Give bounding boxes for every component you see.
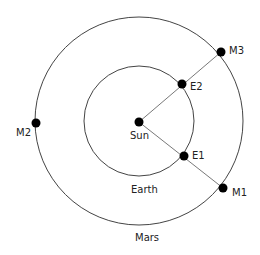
e1-label: E1 [192,150,205,161]
e1-dot [180,152,189,161]
m2-label: M2 [16,127,31,138]
m1-dot [219,184,228,193]
m2-dot [32,119,41,128]
e2-label: E2 [190,81,203,92]
sun-dot [135,118,144,127]
e2-dot [178,80,187,89]
m3-label: M3 [229,45,244,56]
earth-label: Earth [131,184,158,195]
orbit-diagram: Sun E1 E2 M1 M2 M3 Earth Mars [0,0,260,255]
m3-dot [217,48,226,57]
sun-label: Sun [130,130,149,141]
mars-label: Mars [135,232,159,243]
m1-label: M1 [232,187,247,198]
